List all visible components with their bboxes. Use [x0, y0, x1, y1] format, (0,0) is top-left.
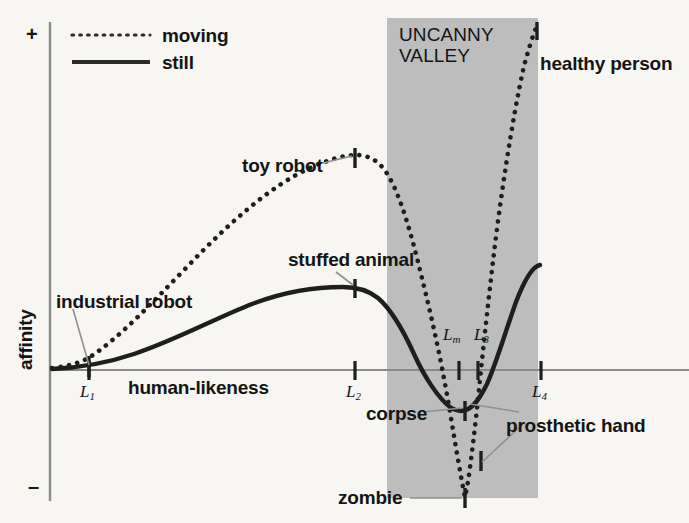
tick-sub-L1: 1 — [89, 390, 95, 402]
uncanny-valley-chart: + – moving still UNCANNY VALLEY healthy … — [0, 0, 689, 523]
axis-positive-sign: + — [26, 24, 38, 44]
annotation-industrial-robot: industrial robot — [56, 292, 192, 311]
tick-sub-L2: 2 — [355, 390, 361, 402]
axis-tick-label-Lm: Lm — [443, 326, 460, 343]
annotation-prosthetic-hand: prosthetic hand — [506, 416, 646, 435]
tick-sub-L4: 4 — [541, 390, 547, 402]
axis-tick-label-L1: L1 — [80, 383, 95, 400]
axis-negative-sign: – — [28, 476, 39, 496]
y-axis-label: affinity — [16, 309, 35, 370]
band-label-line2: VALLEY — [399, 46, 494, 65]
axis-tick-label-L4: L4 — [532, 383, 547, 400]
annotation-corpse: corpse — [366, 404, 427, 423]
annotation-zombie: zombie — [338, 488, 402, 507]
leader-stuffed-animal — [336, 272, 353, 285]
leader-industrial-robot — [73, 309, 89, 365]
band-label-line1: UNCANNY — [399, 24, 494, 45]
legend-label-still[interactable]: still — [162, 53, 194, 72]
x-axis-label: human-likeness — [128, 378, 269, 397]
uncanny-valley-band-label: UNCANNY VALLEY — [399, 25, 494, 65]
annotation-toy-robot: toy robot — [242, 156, 323, 175]
tick-sub-L3: 3 — [483, 333, 489, 345]
tick-sub-Lm: m — [452, 333, 460, 345]
annotation-healthy-person: healthy person — [540, 54, 672, 73]
legend-label-moving[interactable]: moving — [162, 26, 228, 45]
annotation-stuffed-animal: stuffed animal — [288, 250, 414, 269]
axis-tick-label-L3: L3 — [474, 326, 489, 343]
axis-tick-label-L2: L2 — [346, 383, 361, 400]
